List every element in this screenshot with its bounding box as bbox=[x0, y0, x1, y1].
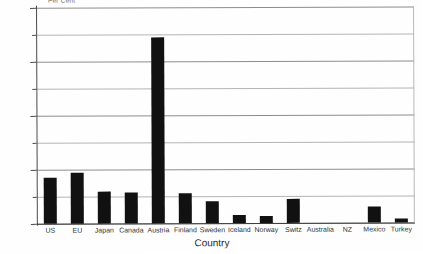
bar bbox=[233, 215, 246, 223]
x-axis-tick-label: Iceland bbox=[228, 226, 251, 234]
bar bbox=[206, 202, 219, 224]
bar bbox=[151, 37, 165, 223]
bar bbox=[44, 178, 57, 224]
x-axis-tick-label: Australia bbox=[307, 226, 334, 234]
x-axis-tick-label: Turkey bbox=[391, 225, 412, 233]
bar bbox=[179, 194, 192, 224]
bar bbox=[98, 191, 111, 223]
x-axis-tick-label: Switz bbox=[285, 226, 302, 234]
bar bbox=[287, 199, 300, 223]
scanned-chart-page: 020406080 Per Cent USEUJapanCanadaAustri… bbox=[0, 0, 423, 254]
x-axis-tick-label: Finland bbox=[174, 226, 197, 234]
bar bbox=[368, 206, 381, 222]
x-axis-tick-label: Austria bbox=[147, 226, 169, 234]
x-axis-tick-label: US bbox=[46, 227, 56, 235]
y-axis-tick bbox=[31, 224, 37, 225]
x-axis-tick-label: Norway bbox=[255, 226, 279, 234]
x-axis-tick-label: EU bbox=[73, 227, 83, 235]
bar-series bbox=[36, 6, 415, 223]
x-axis-tick-label: Mexico bbox=[363, 226, 385, 234]
bar bbox=[125, 192, 138, 223]
bar bbox=[71, 172, 84, 223]
x-axis-tick-label: Sweden bbox=[200, 226, 225, 234]
x-axis-tick-label: Japan bbox=[95, 227, 114, 235]
y-axis-title: Per Cent bbox=[48, 0, 75, 4]
bar bbox=[260, 216, 273, 223]
x-axis-tick-label: NZ bbox=[343, 226, 352, 234]
x-axis-tick-label: Canada bbox=[119, 226, 144, 234]
x-axis-title: Country bbox=[1, 236, 423, 249]
bar bbox=[395, 218, 408, 222]
